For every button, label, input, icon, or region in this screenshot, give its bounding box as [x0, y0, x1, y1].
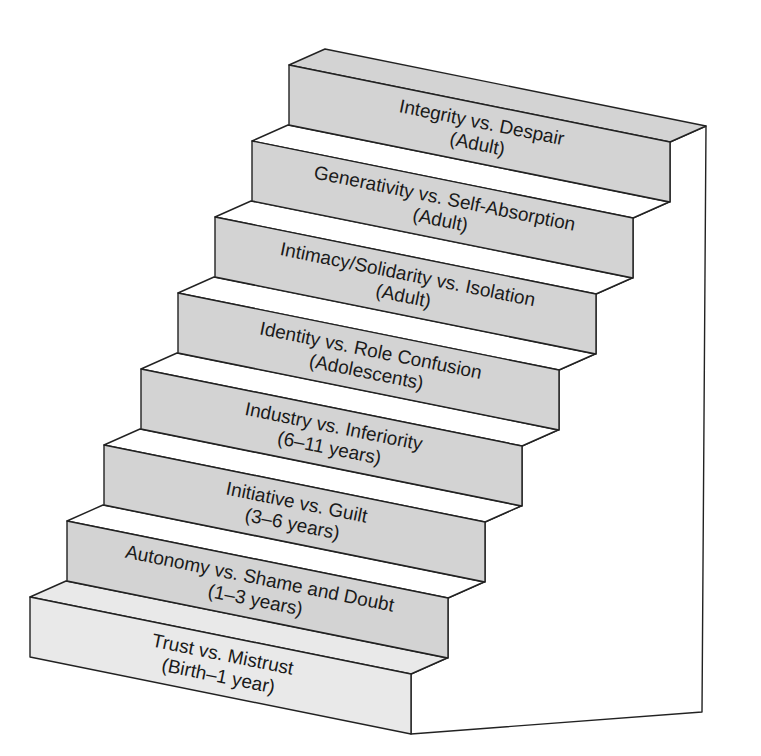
- staircase-graphic: Trust vs. Mistrust(Birth–1 year)Autonomy…: [0, 0, 761, 756]
- erikson-staircase-diagram: Trust vs. Mistrust(Birth–1 year)Autonomy…: [0, 0, 761, 756]
